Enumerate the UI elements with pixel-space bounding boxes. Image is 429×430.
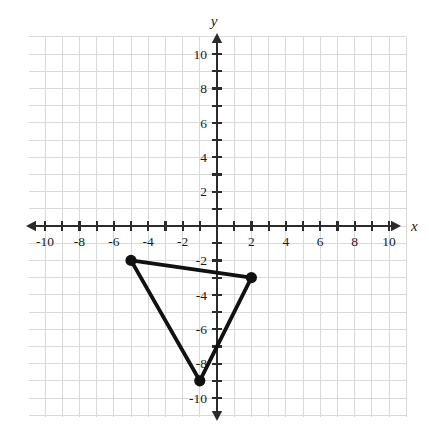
- y-tick-label: 10: [194, 47, 208, 62]
- x-tick-label: -6: [108, 234, 119, 249]
- coordinate-plane-figure: -10-8-6-4-2246810108642-2-4-6-8-10 xy: [0, 0, 429, 430]
- y-tick-label: 8: [200, 81, 207, 96]
- y-tick-label: 6: [200, 116, 207, 131]
- y-tick-label: -10: [189, 391, 207, 406]
- x-tick-label: 2: [248, 234, 255, 249]
- coordinate-plane-svg: -10-8-6-4-2246810108642-2-4-6-8-10 xy: [0, 0, 429, 430]
- x-tick-label: -2: [177, 234, 188, 249]
- y-tick-label: -2: [196, 253, 207, 268]
- x-tick-label: -8: [74, 234, 85, 249]
- x-tick-label: -10: [36, 234, 54, 249]
- vertex-point: [246, 272, 257, 283]
- vertex-point: [194, 375, 205, 386]
- y-tick-label: 4: [200, 150, 207, 165]
- figure-background: [0, 0, 429, 430]
- x-tick-label: 8: [351, 234, 358, 249]
- vertex-point: [125, 255, 136, 266]
- x-tick-label: 10: [382, 234, 396, 249]
- x-tick-label: -4: [143, 234, 154, 249]
- y-tick-label: -4: [196, 288, 207, 303]
- x-tick-label: 4: [282, 234, 289, 249]
- x-axis-name-label: x: [410, 218, 418, 234]
- y-tick-label: 2: [200, 184, 207, 199]
- x-tick-label: 6: [317, 234, 324, 249]
- y-axis-name-label: y: [209, 13, 218, 29]
- y-tick-label: -6: [196, 322, 207, 337]
